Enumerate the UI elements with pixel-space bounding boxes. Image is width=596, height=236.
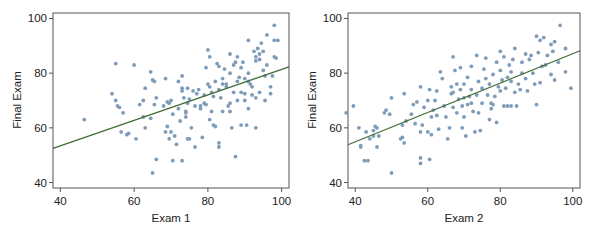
- data-point: [420, 123, 424, 127]
- data-point: [138, 103, 142, 107]
- data-point: [558, 23, 562, 27]
- data-point: [415, 100, 419, 104]
- data-point: [254, 126, 258, 130]
- data-point: [507, 63, 511, 67]
- data-point: [221, 82, 225, 86]
- data-point: [217, 64, 221, 68]
- data-point: [484, 56, 488, 60]
- data-point: [375, 145, 379, 149]
- data-point: [143, 86, 147, 90]
- data-point: [488, 118, 492, 122]
- data-point: [239, 66, 243, 70]
- data-point: [243, 77, 247, 81]
- data-point: [531, 71, 535, 75]
- data-point: [538, 38, 542, 42]
- data-point: [208, 55, 212, 59]
- data-point: [455, 111, 459, 115]
- data-point: [141, 99, 145, 103]
- data-point: [265, 63, 269, 67]
- data-point: [542, 36, 546, 40]
- data-point: [564, 47, 568, 51]
- data-point: [509, 80, 513, 84]
- data-point: [477, 80, 481, 84]
- data-point: [364, 130, 368, 134]
- data-point: [171, 159, 175, 163]
- data-point: [197, 88, 201, 92]
- data-point: [430, 133, 434, 137]
- data-point: [466, 103, 470, 107]
- data-point: [241, 60, 245, 64]
- data-point: [232, 90, 236, 94]
- data-point: [212, 95, 216, 99]
- x-tick-label: 40: [54, 195, 67, 207]
- data-point: [254, 59, 258, 63]
- data-point: [551, 49, 555, 53]
- data-point: [524, 77, 528, 81]
- data-point: [428, 88, 432, 92]
- data-point: [375, 126, 379, 130]
- data-point: [153, 80, 157, 84]
- data-point: [466, 75, 470, 79]
- data-point: [252, 49, 256, 53]
- data-point: [388, 112, 392, 116]
- data-point: [258, 90, 262, 94]
- data-point: [259, 41, 263, 45]
- x-axis-ticks: 406080100: [54, 188, 291, 207]
- data-point: [529, 54, 533, 58]
- data-point: [460, 104, 464, 108]
- data-point: [359, 145, 363, 149]
- data-point: [236, 99, 240, 103]
- data-point: [411, 103, 415, 107]
- data-point: [269, 85, 273, 89]
- data-point: [250, 85, 254, 89]
- data-point: [390, 96, 394, 100]
- data-point: [236, 80, 240, 84]
- data-point: [495, 60, 499, 64]
- data-point: [178, 119, 182, 123]
- data-point: [527, 58, 531, 62]
- data-point: [344, 111, 348, 115]
- data-point: [533, 82, 537, 86]
- data-point: [515, 104, 519, 108]
- data-point: [419, 162, 423, 166]
- data-point: [175, 142, 179, 146]
- data-point: [258, 58, 262, 62]
- data-point: [189, 126, 193, 130]
- x-axis-title: Exam 2: [445, 212, 484, 224]
- x-tick-label: 80: [494, 195, 507, 207]
- data-point: [236, 55, 240, 59]
- data-point: [484, 77, 488, 81]
- data-point: [488, 82, 492, 86]
- data-point: [473, 130, 477, 134]
- data-point: [164, 77, 168, 81]
- data-point: [217, 141, 221, 145]
- data-point: [274, 56, 278, 60]
- y-tick-label: 40: [329, 177, 342, 189]
- data-point: [213, 125, 217, 129]
- data-point: [469, 88, 473, 92]
- data-point: [186, 86, 190, 90]
- data-point: [491, 103, 495, 107]
- data-point: [498, 69, 502, 73]
- data-point: [451, 55, 455, 59]
- data-point: [384, 108, 388, 112]
- data-point: [402, 141, 406, 145]
- data-point: [459, 88, 463, 92]
- data-point: [495, 121, 499, 125]
- data-point: [188, 137, 192, 141]
- x-tick-label: 60: [128, 195, 141, 207]
- data-point: [180, 86, 184, 90]
- data-point: [489, 107, 493, 111]
- data-point: [247, 38, 251, 42]
- data-point: [502, 55, 506, 59]
- data-point: [491, 73, 495, 77]
- data-point: [469, 101, 473, 105]
- data-point: [272, 38, 276, 42]
- data-point: [526, 89, 530, 93]
- data-point: [234, 155, 238, 159]
- data-point: [245, 123, 249, 127]
- data-point: [184, 115, 188, 119]
- data-point: [419, 85, 423, 89]
- data-point: [195, 92, 199, 96]
- data-point: [177, 107, 181, 111]
